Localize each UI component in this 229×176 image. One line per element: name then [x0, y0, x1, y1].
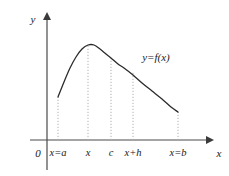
x-tick-label: x=b — [170, 148, 187, 159]
x-tick-label: x=a — [50, 148, 67, 159]
origin-label: 0 — [35, 148, 41, 159]
x-axis-label: x — [217, 148, 222, 159]
curve-label: y=f(x) — [142, 52, 170, 63]
x-tick-label: c — [109, 148, 114, 159]
x-tick-label: x — [86, 148, 91, 159]
x-tick-label: x+h — [125, 148, 142, 159]
y-axis-label: y — [31, 14, 36, 25]
x-axis-arrowhead — [206, 136, 214, 144]
function-graph-figure: 0 y x y=f(x) x=axcx+hx=b — [0, 0, 229, 176]
y-axis-arrowhead — [43, 12, 51, 20]
